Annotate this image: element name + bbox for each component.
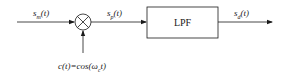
product-signal-label: sp(t) (107, 9, 122, 20)
input-signal-arg: (t) (41, 8, 50, 18)
input-signal-label: sm(t) (33, 9, 49, 20)
lpf-label: LPF (147, 7, 218, 38)
carrier-tail: t) (101, 61, 107, 71)
block-diagram: sm(t) sp(t) LPF sd(t) c(t)=cos(ωct) (0, 0, 284, 79)
multiplier-icon (75, 14, 91, 30)
carrier-label: c(t)=cos(ωct) (58, 62, 106, 73)
carrier-text: c(t)=cos(ω (58, 61, 98, 71)
output-signal-label: sd(t) (234, 9, 249, 20)
product-signal-arg: (t) (114, 8, 123, 18)
output-signal-arg: (t) (241, 8, 250, 18)
